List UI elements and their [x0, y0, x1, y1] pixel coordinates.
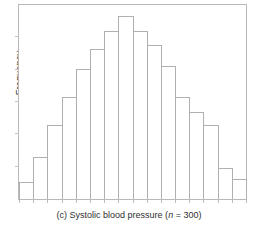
x-tick: [189, 199, 190, 203]
x-tick: [33, 199, 34, 203]
plot-frame: [18, 4, 247, 200]
y-tick: [15, 69, 19, 70]
histogram-figure: Frequency (c) Systolic blood pressure (n…: [0, 0, 258, 232]
x-tick: [133, 199, 134, 203]
histogram-bar: [218, 168, 233, 199]
x-tick: [175, 199, 176, 203]
histogram-bar: [62, 97, 77, 199]
x-tick: [218, 199, 219, 203]
y-tick: [15, 101, 19, 102]
x-tick: [104, 199, 105, 203]
histogram-bar: [189, 112, 204, 199]
histogram-bar: [175, 97, 190, 199]
y-tick: [15, 166, 19, 167]
x-tick: [161, 199, 162, 203]
x-tick: [90, 199, 91, 203]
histogram-bar: [76, 69, 91, 199]
histogram-bar: [33, 157, 48, 199]
x-tick: [118, 199, 119, 203]
x-tick: [147, 199, 148, 203]
histogram-bar: [133, 31, 148, 199]
histogram-bar: [47, 125, 62, 199]
x-tick: [76, 199, 77, 203]
histogram-bar: [90, 49, 105, 199]
histogram-bar: [19, 182, 34, 199]
x-tick: [246, 199, 247, 203]
y-tick: [15, 133, 19, 134]
histogram-bar: [147, 45, 162, 199]
histogram-bar: [161, 66, 176, 199]
y-tick: [15, 36, 19, 37]
x-tick: [19, 199, 20, 203]
histogram-bar: [232, 179, 247, 199]
x-tick: [232, 199, 233, 203]
histogram-bar: [118, 16, 133, 199]
figure-caption: (c) Systolic blood pressure (n = 300): [0, 210, 258, 220]
x-tick: [62, 199, 63, 203]
x-tick: [47, 199, 48, 203]
histogram-bar: [104, 31, 119, 199]
x-tick: [203, 199, 204, 203]
caption-suffix: = 300): [173, 210, 201, 220]
caption-prefix: (c) Systolic blood pressure (: [57, 210, 169, 220]
histogram-bar: [203, 125, 218, 199]
histogram-bars: [19, 5, 246, 199]
